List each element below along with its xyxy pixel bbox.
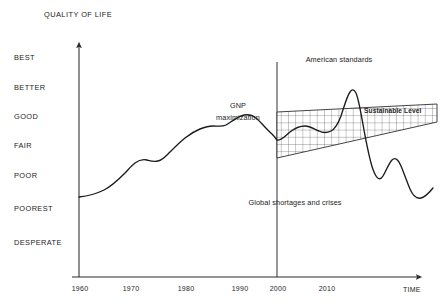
y-tick-label-fair: FAIR bbox=[14, 141, 32, 150]
gnp-label-line1: GNP bbox=[230, 101, 246, 110]
y-tick-label-poor: POOR bbox=[14, 171, 37, 180]
annotation-sustainable-level: Sustainable Level bbox=[364, 107, 421, 114]
chart-background bbox=[0, 0, 447, 307]
x-tick-label-1970: 1970 bbox=[123, 285, 140, 292]
y-tick-label-better: BETTER bbox=[14, 83, 46, 92]
y-tick-label-good: GOOD bbox=[14, 112, 38, 121]
chart-svg: QUALITY OF LIFE BEST BETTER GOOD FAIR PO… bbox=[0, 0, 447, 307]
y-tick-label-poorest: POOREST bbox=[14, 204, 53, 213]
x-tick-label-1960: 1960 bbox=[72, 285, 89, 292]
annotation-global-shortages: Global shortages and crises bbox=[248, 198, 341, 207]
x-tick-label-1980: 1980 bbox=[178, 285, 195, 292]
x-tick-label-2000: 2000 bbox=[270, 285, 287, 292]
y-tick-label-desperate: DESPERATE bbox=[14, 238, 62, 247]
x-tick-label-2010: 2010 bbox=[319, 285, 336, 292]
x-axis-title: TIME bbox=[403, 286, 421, 293]
x-tick-label-1990: 1990 bbox=[232, 285, 249, 292]
quality-of-life-chart: QUALITY OF LIFE BEST BETTER GOOD FAIR PO… bbox=[0, 0, 447, 307]
gnp-label-line2: maximization bbox=[216, 113, 260, 122]
annotation-american-standards: American standards bbox=[306, 55, 373, 64]
y-axis-title: QUALITY OF LIFE bbox=[44, 10, 112, 19]
y-tick-label-best: BEST bbox=[14, 53, 35, 62]
